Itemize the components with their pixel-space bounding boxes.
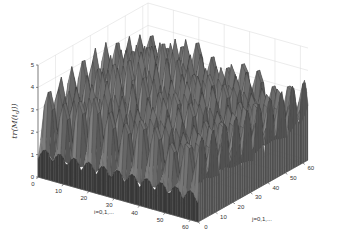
surface-skirt [252, 147, 254, 191]
surface-skirt [79, 164, 82, 189]
surface-skirt [292, 86, 294, 169]
z-tick-label: 0 [31, 174, 35, 180]
surface-skirt [96, 170, 99, 195]
surface-skirt [127, 176, 130, 203]
surface-skirt [124, 180, 127, 202]
surface-skirt [129, 174, 132, 203]
surface-skirt [112, 173, 115, 199]
x-tick-label: 50 [157, 217, 164, 223]
surface-skirt [201, 138, 203, 220]
surface-skirt [94, 170, 97, 194]
surface-skirt [168, 193, 171, 215]
surface-skirt [135, 176, 138, 205]
y-tick [285, 173, 287, 175]
y-tick-label: 50 [290, 175, 297, 181]
surface-skirt [162, 183, 165, 212]
z-tick-label: 4 [31, 84, 35, 90]
z-tick-label: 1 [31, 152, 35, 158]
surface-skirt [268, 98, 270, 183]
surface-skirt [193, 193, 196, 221]
surface-skirt [257, 104, 259, 189]
surface-skirt [306, 88, 308, 161]
surface-skirt [183, 195, 186, 218]
surface-skirt [91, 165, 94, 193]
x-tick [189, 220, 191, 222]
surface-mesh [38, 35, 308, 222]
surface-skirt [236, 117, 238, 201]
surface-skirt [270, 98, 272, 182]
y-tick-label: 30 [255, 194, 262, 200]
x-tick-label: 10 [55, 188, 62, 194]
surface-skirt [173, 187, 176, 216]
x-tick [87, 191, 89, 193]
surface-skirt [99, 167, 102, 195]
surface-skirt [282, 92, 284, 175]
surface-skirt [117, 170, 120, 200]
z-tick-label: 3 [31, 107, 35, 113]
surface-skirt [305, 80, 307, 162]
surface-skirt [245, 111, 247, 196]
surface-skirt [109, 176, 112, 198]
surface-skirt [294, 89, 296, 168]
x-tick [163, 213, 165, 215]
x-tick [62, 184, 64, 186]
surface-skirt [291, 86, 293, 170]
surface-skirt [298, 121, 300, 166]
surface-skirt [145, 179, 148, 208]
surface-skirt [275, 135, 277, 179]
surface-skirt [74, 158, 77, 188]
surface-skirt [214, 130, 216, 213]
x-tick-label: 20 [80, 195, 87, 201]
surface-skirt [66, 164, 69, 185]
surface-skirt [190, 191, 193, 221]
surface-skirt [157, 183, 160, 212]
surface-skirt [104, 167, 107, 197]
surface-skirt [178, 188, 181, 217]
surface-skirt [188, 191, 191, 220]
surface-skirt [160, 183, 163, 212]
surface-skirt [170, 188, 173, 215]
y-tick-label: 60 [307, 165, 314, 171]
surface-skirt [43, 150, 46, 179]
y-tick [268, 183, 270, 185]
z-axis-label: tr(M(i,j)) [10, 103, 19, 138]
y-tick [215, 212, 217, 214]
surface-skirt [132, 174, 135, 204]
y-tick-label: 10 [220, 214, 227, 220]
y-tick [250, 192, 252, 194]
surface-skirt [203, 140, 205, 219]
surface-skirt [280, 92, 282, 176]
surface-skirt [155, 185, 158, 210]
surface-skirt [147, 179, 150, 209]
surface-skirt [235, 117, 237, 202]
surface-skirt [137, 181, 140, 205]
surface-skirt [86, 162, 89, 191]
surface-skirt [81, 167, 84, 190]
surface-skirt [68, 160, 71, 186]
x-tick-label: 60 [182, 224, 189, 230]
surface-skirt [114, 170, 117, 199]
x-tick-label: 40 [131, 210, 138, 216]
surface-skirt [224, 124, 226, 207]
surface-skirt [84, 163, 87, 190]
surface-skirt [222, 124, 224, 208]
y-tick [233, 202, 235, 204]
y-axis-label: j=0,1,... [251, 216, 272, 222]
surface-skirt [41, 151, 44, 179]
y-tick-label: 40 [272, 185, 279, 191]
surface-skirt [200, 138, 202, 221]
surface-skirt [175, 187, 178, 217]
surface-skirt [46, 150, 49, 180]
surface-skirt [76, 159, 79, 188]
x-tick [113, 198, 115, 200]
z-tick-label: 5 [31, 62, 35, 68]
y-tick [303, 163, 305, 165]
surface-skirt [185, 192, 188, 220]
z-tick-label: 2 [31, 129, 35, 135]
surface-skirt [119, 171, 122, 200]
z-tick-labels: 0 1 2 3 4 5 [31, 62, 35, 180]
surface-skirt [247, 111, 249, 195]
surface-skirt [152, 187, 155, 210]
x-tick-label: 30 [106, 202, 113, 208]
surface-skirt [301, 84, 303, 164]
